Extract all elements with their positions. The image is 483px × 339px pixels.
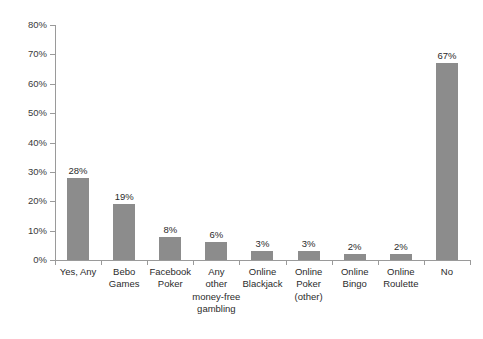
x-axis-tick-mark [286, 261, 287, 265]
x-axis-category-label: No [417, 266, 477, 278]
category-label-line: gambling [186, 303, 246, 315]
category-label-line: (other) [279, 291, 339, 303]
bar-value-label: 3% [256, 238, 270, 249]
bar[interactable] [67, 178, 89, 260]
bar[interactable] [298, 251, 320, 260]
bar-value-label: 2% [348, 241, 362, 252]
bar-value-label: 2% [394, 241, 408, 252]
x-axis-tick-mark [332, 261, 333, 265]
x-axis-tick-mark [193, 261, 194, 265]
bar-group[interactable]: 2% [332, 25, 378, 260]
bar-group[interactable]: 3% [239, 25, 285, 260]
bar[interactable] [159, 237, 181, 261]
bar-group[interactable]: 28% [55, 25, 101, 260]
y-axis-tick-label: 0% [5, 255, 47, 265]
bar-group[interactable]: 8% [147, 25, 193, 260]
bar-group[interactable]: 3% [286, 25, 332, 260]
bar-group[interactable]: 2% [378, 25, 424, 260]
y-axis-tick-label: 20% [5, 196, 47, 206]
y-axis-tick-label: 40% [5, 138, 47, 148]
y-axis-tick-label: 50% [5, 108, 47, 118]
bar[interactable] [205, 242, 227, 260]
category-label-line: money-free [186, 291, 246, 303]
plot-area: 28%19%8%6%3%3%2%2%67% [55, 25, 470, 260]
y-axis-tick-label: 80% [5, 20, 47, 30]
x-axis-tick-mark [147, 261, 148, 265]
x-axis-tick-mark [101, 261, 102, 265]
category-label-line: Roulette [371, 278, 431, 290]
bar-value-label: 6% [210, 229, 224, 240]
y-axis-tick-labels: 80%70%60%50%40%30%20%10%0% [0, 0, 47, 339]
bar-value-label: 19% [115, 191, 134, 202]
x-axis-category-labels: Yes, AnyBeboGamesFacebookPokerAnyothermo… [55, 266, 470, 339]
bar-group[interactable]: 67% [424, 25, 470, 260]
bar-value-label: 3% [302, 238, 316, 249]
y-axis-tick-label: 10% [5, 226, 47, 236]
category-label-line: No [417, 266, 477, 278]
x-axis-tick-mark [239, 261, 240, 265]
bar-value-label: 67% [437, 50, 456, 61]
bar[interactable] [113, 204, 135, 260]
x-axis-tick-mark [424, 261, 425, 265]
bar-value-label: 28% [69, 165, 88, 176]
bar-value-label: 8% [163, 224, 177, 235]
x-axis-tick-mark [470, 261, 471, 265]
bar[interactable] [344, 254, 366, 260]
x-axis-tick-mark [378, 261, 379, 265]
y-axis-tick-label: 60% [5, 79, 47, 89]
bar-group[interactable]: 6% [193, 25, 239, 260]
bar[interactable] [390, 254, 412, 260]
x-axis-line [55, 260, 471, 261]
bar-chart: 80%70%60%50%40%30%20%10%0% 28%19%8%6%3%3… [0, 0, 483, 339]
bar[interactable] [436, 63, 458, 260]
bar-group[interactable]: 19% [101, 25, 147, 260]
y-axis-tick-label: 70% [5, 49, 47, 59]
y-axis-tick-label: 30% [5, 167, 47, 177]
x-axis-tick-mark [55, 261, 56, 265]
bar[interactable] [251, 251, 273, 260]
